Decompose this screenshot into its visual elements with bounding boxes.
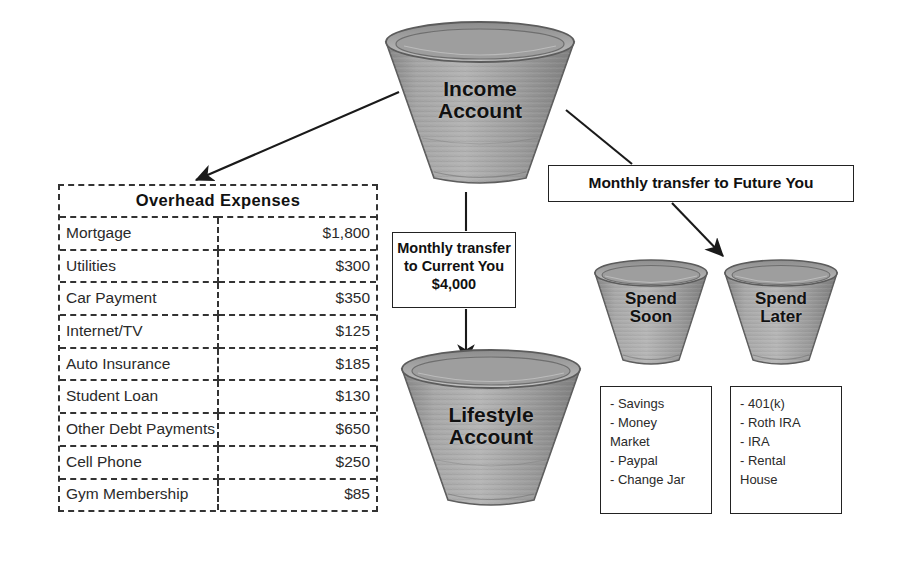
expense-label: Car Payment [60,282,218,315]
list-item: - Roth IRA [740,414,834,433]
table-row: Other Debt Payments$650 [60,413,376,446]
bucket-spend-soon: Spend Soon [592,258,710,370]
expense-label: Internet/TV [60,315,218,348]
list-item: - IRA [740,433,834,452]
expense-amount: $300 [218,250,376,283]
callout-current-you: Monthly transfer to Current You $4,000 [392,232,516,308]
list-item: - 401(k) [740,395,834,414]
arrow-future-callout-to-spend-buckets [672,203,723,256]
expense-amount: $650 [218,413,376,446]
callout-future-you: Monthly transfer to Future You [548,165,854,202]
table-row: Utilities$300 [60,250,376,283]
list-item: - Change Jar [610,471,704,490]
overhead-table-title: Overhead Expenses [60,186,376,217]
expense-label: Utilities [60,250,218,283]
list-item: - Rental House [740,452,834,490]
list-spend-soon: - Savings- Money Market- Paypal- Change … [600,386,712,514]
table-row: Gym Membership$85 [60,479,376,511]
table-row: Cell Phone$250 [60,446,376,479]
arrow-income-to-overhead [196,92,399,180]
table-row: Student Loan$130 [60,380,376,413]
table-row: Auto Insurance$185 [60,348,376,381]
expense-amount: $185 [218,348,376,381]
expense-label: Cell Phone [60,446,218,479]
expense-label: Student Loan [60,380,218,413]
expense-amount: $130 [218,380,376,413]
list-item: - Money Market [610,414,704,452]
bucket-lifestyle-account: Lifestyle Account [398,348,584,514]
expense-amount: $1,800 [218,217,376,250]
diagram-canvas: Overhead Expenses Mortgage$1,800Utilitie… [0,0,902,566]
expense-amount: $85 [218,479,376,511]
expense-amount: $125 [218,315,376,348]
expense-amount: $350 [218,282,376,315]
overhead-expenses-table: Overhead Expenses Mortgage$1,800Utilitie… [58,184,378,512]
expense-label: Gym Membership [60,479,218,511]
list-spend-later: - 401(k)- Roth IRA- IRA- Rental House [730,386,842,514]
table-row: Car Payment$350 [60,282,376,315]
table-row: Internet/TV$125 [60,315,376,348]
bucket-spend-later: Spend Later [722,258,840,370]
expense-label: Mortgage [60,217,218,250]
list-item: - Savings [610,395,704,414]
expense-label: Other Debt Payments [60,413,218,446]
list-item: - Paypal [610,452,704,471]
table-row: Mortgage$1,800 [60,217,376,250]
expense-label: Auto Insurance [60,348,218,381]
expense-amount: $250 [218,446,376,479]
